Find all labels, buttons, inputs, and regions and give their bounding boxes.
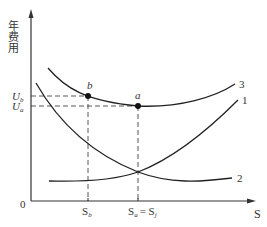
curve-2 <box>49 100 238 181</box>
cost-chart: 年费用 0 S b a Ub Ua Sb Sa= Sj 3 1 2 <box>0 0 267 227</box>
sa-label: Sa= Sj <box>128 205 157 219</box>
curve-3 <box>48 68 235 106</box>
y-axis-label: 年费用 <box>7 19 20 54</box>
guide-lines <box>31 96 138 201</box>
point-b-marker <box>85 93 91 99</box>
curve-1-label: 1 <box>242 94 248 106</box>
sb-label: Sb <box>82 205 92 219</box>
x-axis-arrow-icon <box>247 199 256 204</box>
point-b-label: b <box>87 79 93 91</box>
curve-3-label: 3 <box>239 78 245 90</box>
curve-2-label: 2 <box>237 172 243 184</box>
x-axis-label: S <box>254 207 261 221</box>
point-a-marker <box>135 103 141 109</box>
point-a-label: a <box>135 89 141 101</box>
origin-label: 0 <box>20 198 26 210</box>
y-axis-arrow-icon <box>29 9 34 18</box>
